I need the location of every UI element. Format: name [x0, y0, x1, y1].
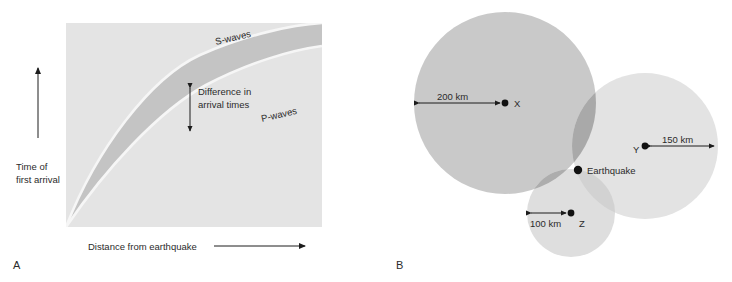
panel-b: 200 km X 150 km Y 100 km Z Earthquake B — [396, 12, 718, 271]
station-y-dot — [642, 143, 649, 150]
station-z-distance-label: 100 km — [530, 218, 561, 229]
panel-a-letter: A — [13, 259, 21, 271]
station-y-distance-label: 150 km — [662, 134, 693, 145]
panel-a: Time of first arrival Distance from eart… — [13, 23, 322, 271]
arrival-difference-label-line1: Difference in — [198, 86, 251, 97]
station-y-label: Y — [633, 144, 640, 155]
arrival-difference-label-line2: arrival times — [198, 99, 249, 110]
panel-a-y-axis-label-line2: first arrival — [16, 174, 60, 185]
earthquake-epicenter-label: Earthquake — [587, 165, 636, 176]
panel-a-y-axis-label-line1: Time of — [16, 161, 48, 172]
station-z-label: Z — [579, 218, 585, 229]
station-x-dot — [502, 100, 509, 107]
station-x-distance-label: 200 km — [437, 91, 468, 102]
panel-a-x-axis-label: Distance from earthquake — [88, 241, 197, 252]
station-x-label: X — [514, 98, 521, 109]
figure-canvas: Time of first arrival Distance from eart… — [0, 0, 732, 282]
seismology-figure: Time of first arrival Distance from eart… — [0, 0, 732, 282]
station-z-dot — [568, 210, 575, 217]
earthquake-epicenter-dot — [574, 166, 582, 174]
panel-b-letter: B — [396, 259, 403, 271]
